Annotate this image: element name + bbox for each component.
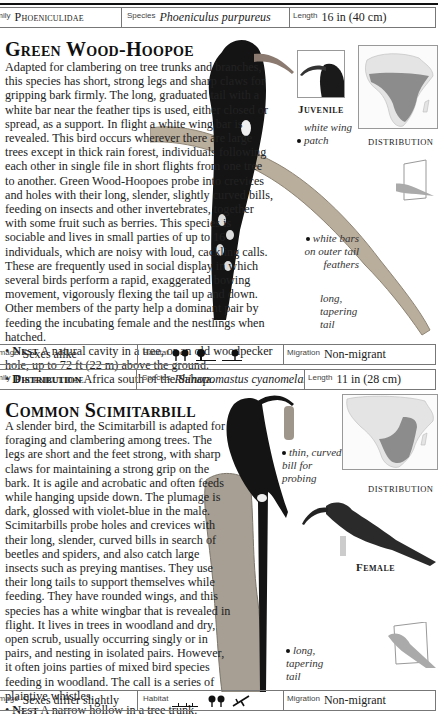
grassland-icon: [172, 695, 198, 707]
family-value: Phoeniculidae: [15, 372, 84, 387]
flight-silhouette-book-icon: [396, 158, 436, 206]
length-value: 16 in (40 cm): [321, 10, 386, 25]
migration-value: Non-migrant: [324, 347, 386, 362]
species-cell: Species Phoeniculus purpureus: [122, 8, 290, 27]
description-text: Adapted for clambering on tree trunks an…: [5, 60, 273, 344]
pointer-dot-icon: [306, 237, 310, 241]
prey-insect-icon: [284, 406, 294, 440]
migration-cell: Migration Non-migrant: [284, 691, 435, 710]
species-value: Phoeniculus purpureus: [159, 10, 270, 25]
annotation-bill: thin, curved bill for probing: [282, 446, 342, 485]
plumage-value: Sexes differ slightly: [23, 693, 119, 708]
distribution-map-2: [342, 394, 438, 470]
family-cell: Family Phoeniculidae: [0, 8, 122, 27]
plumage-label: Plumage: [0, 348, 19, 357]
length-value: 11 in (28 cm): [336, 372, 401, 387]
plumage-label: Plumage: [0, 694, 19, 703]
species-1-info-top: Family Phoeniculidae Species Phoeniculus…: [0, 7, 436, 28]
distribution-map-1: [358, 45, 438, 129]
species-2-info-bottom: Plumage Sexes differ slightly Habitat Mi…: [0, 690, 436, 711]
juvenile-inset: [297, 50, 345, 98]
family-value: Phoeniculidae: [15, 10, 84, 25]
plumage-cell: Plumage Sexes alike: [0, 345, 138, 364]
female-caption: Female: [356, 561, 395, 573]
species-1-info-bottom: Plumage Sexes alike Habitat Migration No…: [0, 344, 436, 365]
distribution-caption-1: DISTRIBUTION: [368, 137, 434, 147]
female-bird-icon: [300, 500, 438, 570]
description-text: A slender bird, the Scimitarbill is adap…: [5, 419, 231, 703]
length-cell: Length 11 in (28 cm): [305, 370, 435, 389]
species-2-info-top: Family Phoeniculidae Species Rhinopomast…: [0, 369, 436, 390]
africa-map-icon: [343, 395, 438, 470]
flight-silhouette-book-icon: [386, 622, 438, 670]
annotation-wing-patch: white wing patch: [297, 121, 359, 147]
pointer-dot-icon: [297, 139, 301, 143]
top-rule: [0, 3, 438, 5]
species-label: Species: [142, 373, 170, 382]
pointer-dot-icon: [286, 649, 290, 653]
africa-map-icon: [359, 46, 438, 129]
migration-label: Migration: [287, 694, 320, 703]
annotation-tail: long, tapering tail: [286, 644, 330, 683]
distribution-caption-2: DISTRIBUTION: [368, 484, 434, 494]
length-label: Length: [308, 373, 332, 382]
wing-patch-icon: [257, 494, 267, 502]
species-1-description: Adapted for clambering on tree trunks an…: [5, 60, 273, 387]
length-label: Length: [293, 11, 317, 20]
species-cell: Species Rhinopomastus cyanomelas: [137, 370, 305, 389]
woodland-icon: [208, 695, 226, 707]
plumage-value: Sexes alike: [23, 347, 77, 362]
migration-cell: Migration Non-migrant: [284, 345, 435, 364]
woodland-icon: [196, 349, 216, 361]
species-value: Rhinopomastus cyanomelas: [174, 372, 305, 387]
annotation-tail: long, tapering tail: [320, 292, 360, 331]
pointer-dot-icon: [282, 451, 286, 455]
family-label: Family: [0, 373, 11, 382]
migration-value: Non-migrant: [324, 693, 386, 708]
migration-label: Migration: [287, 348, 320, 357]
juvenile-bird-icon: [298, 51, 345, 98]
desert-scrub-icon: [232, 695, 250, 707]
juvenile-caption: Juvenile: [298, 103, 344, 115]
habitat-cell: Habitat: [138, 345, 284, 364]
length-cell: Length 16 in (40 cm): [290, 8, 435, 27]
habitat-cell: Habitat: [138, 691, 284, 710]
species-label: Species: [127, 11, 155, 20]
habitat-label: Habitat: [143, 348, 168, 357]
species-2-description: A slender bird, the Scimitarbill is adap…: [5, 419, 231, 716]
habitat-label: Habitat: [143, 694, 168, 703]
family-label: Family: [0, 11, 11, 20]
savanna-icon: [222, 349, 242, 361]
annotation-tail-bars: white bars on outer tail feathers: [297, 232, 359, 271]
plumage-cell: Plumage Sexes differ slightly: [0, 691, 138, 710]
family-cell: Family Phoeniculidae: [0, 370, 137, 389]
forest-icon: [172, 349, 190, 361]
